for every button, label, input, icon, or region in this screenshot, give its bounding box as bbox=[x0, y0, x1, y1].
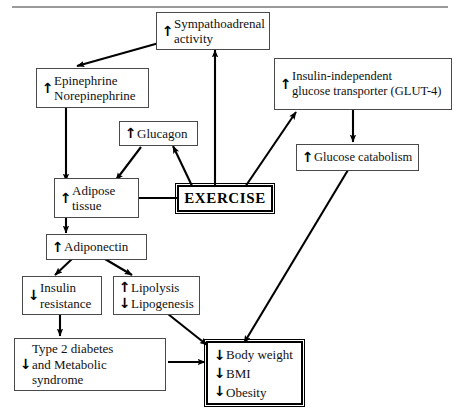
node-lipolysis-lipogenesis: ↑ ↓ Lipolysis Lipogenesis bbox=[113, 276, 200, 315]
down-arrow-icon: ↓ bbox=[119, 296, 131, 311]
up-arrow-icon: ↑ bbox=[124, 124, 137, 143]
down-arrow-icon: ↓ bbox=[214, 384, 226, 399]
up-arrow-icon: ↑ bbox=[279, 61, 292, 107]
flowchart-diagram: ↑ Sympathoadrenal activity ↑ Epinephrine… bbox=[0, 0, 459, 420]
arrow-stack: ↑ ↓ bbox=[118, 279, 131, 312]
node-label: Adiponectin bbox=[64, 239, 142, 255]
node-label: Type 2 diabetes and Metabolic syndrome bbox=[32, 341, 161, 388]
edge-sympathoadrenal-epinephrine bbox=[77, 43, 159, 66]
arrow-stack: ↓ ↓ ↓ bbox=[213, 346, 226, 400]
node-label: Glucagon bbox=[137, 126, 193, 142]
edge-exercise-glucagon bbox=[173, 146, 193, 188]
down-arrow-icon: ↓ bbox=[214, 366, 226, 381]
node-adiponectin: ↑ Adiponectin bbox=[46, 234, 147, 260]
node-epinephrine: ↑ Epinephrine Norepinephrine bbox=[36, 68, 149, 108]
down-arrow-icon: ↓ bbox=[19, 341, 32, 388]
down-arrow-icon: ↓ bbox=[27, 279, 40, 312]
node-label: Adipose tissue bbox=[72, 183, 134, 214]
node-glucose-catabolism: ↑ Glucose catabolism bbox=[296, 144, 419, 171]
node-bodyweight-bmi-obesity: ↓ ↓ ↓ Body weight BMI Obesity bbox=[206, 341, 303, 405]
up-arrow-icon: ↑ bbox=[119, 280, 131, 295]
up-arrow-icon: ↑ bbox=[51, 237, 64, 257]
node-label: Insulin-independent glucose transporter … bbox=[292, 69, 447, 99]
edge-adiponectin-insulin-resistance bbox=[55, 259, 72, 275]
node-label: Sympathoadrenal activity bbox=[174, 16, 265, 47]
node-adipose-tissue: ↑ Adipose tissue bbox=[54, 178, 139, 218]
edge-glucagon-adipose bbox=[116, 147, 141, 180]
node-label: Glucose catabolism bbox=[314, 150, 414, 165]
up-arrow-icon: ↑ bbox=[161, 15, 174, 47]
node-label: Insulin resistance bbox=[40, 280, 97, 311]
node-sympathoadrenal-activity: ↑ Sympathoadrenal activity bbox=[156, 12, 270, 50]
node-label: Lipolysis Lipogenesis bbox=[131, 280, 195, 311]
edge-exercise-glut4 bbox=[243, 112, 296, 190]
node-insulin-resistance: ↓ Insulin resistance bbox=[22, 276, 102, 315]
node-label: Epinephrine Norepinephrine bbox=[54, 73, 144, 104]
edge-adiponectin-lipolysis bbox=[105, 259, 132, 275]
top-horizontal-rule bbox=[12, 6, 448, 8]
up-arrow-icon: ↑ bbox=[301, 147, 314, 168]
up-arrow-icon: ↑ bbox=[41, 71, 54, 105]
down-arrow-icon: ↓ bbox=[214, 348, 226, 363]
node-glucagon: ↑ Glucagon bbox=[119, 121, 198, 146]
node-exercise: EXERCISE bbox=[177, 185, 273, 212]
node-type2-diabetes: ↓ Type 2 diabetes and Metabolic syndrome bbox=[14, 338, 166, 391]
edge-lipolysis-bodyweight bbox=[168, 314, 207, 345]
up-arrow-icon: ↑ bbox=[59, 181, 72, 215]
node-glut4: ↑ Insulin-independent glucose transporte… bbox=[274, 58, 452, 110]
node-label: Body weight BMI Obesity bbox=[226, 345, 296, 402]
node-label: EXERCISE bbox=[184, 190, 266, 207]
